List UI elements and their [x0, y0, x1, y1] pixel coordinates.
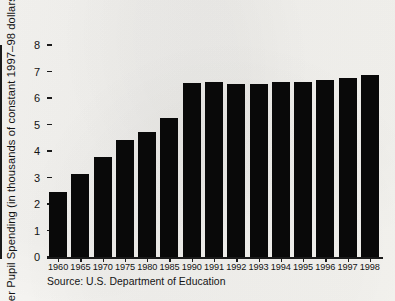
y-tick-label-5: 5 — [18, 119, 40, 131]
bar-1995 — [294, 82, 312, 257]
y-tick-label-1: 1 — [18, 225, 40, 237]
y-tick-label-7: 7 — [18, 66, 40, 78]
bar-1993 — [250, 84, 268, 257]
bar-1992 — [227, 84, 245, 257]
x-tick-label-1965: 1965 — [70, 262, 90, 272]
y-tick-label-6: 6 — [18, 92, 40, 104]
bar-1975 — [116, 140, 134, 257]
bar-1970 — [94, 157, 112, 257]
y-tick-label-2: 2 — [18, 198, 40, 210]
y-tick-label-8: 8 — [18, 39, 40, 51]
bar-1996 — [316, 80, 334, 257]
bar-1994 — [272, 82, 290, 257]
bar-1965 — [71, 174, 89, 257]
bar-1998 — [361, 75, 379, 257]
bar-1991 — [205, 82, 223, 257]
y-tick-label-3: 3 — [18, 172, 40, 184]
x-tick-label-1985: 1985 — [159, 262, 179, 272]
y-axis-line — [0, 45, 2, 259]
bar-1985 — [160, 118, 178, 257]
x-tick-label-1994: 1994 — [271, 262, 291, 272]
x-tick-label-1970: 1970 — [93, 262, 113, 272]
x-tick-label-1993: 1993 — [249, 262, 269, 272]
source-note: Source: U.S. Department of Education — [47, 276, 226, 287]
bar-1990 — [183, 83, 201, 257]
x-tick-label-1980: 1980 — [137, 262, 157, 272]
x-tick-label-1992: 1992 — [226, 262, 246, 272]
bar-1980 — [138, 132, 156, 257]
bar-1960 — [49, 192, 67, 257]
x-tick-label-1997: 1997 — [338, 262, 358, 272]
y-tick-label-0: 0 — [18, 251, 40, 263]
bar-1997 — [339, 78, 357, 257]
plot-area — [47, 45, 381, 257]
bar-chart-figure: Per Pupil Spending (in thousands of cons… — [0, 0, 395, 301]
y-tick-label-4: 4 — [18, 145, 40, 157]
x-tick-label-1998: 1998 — [360, 262, 380, 272]
x-tick-label-1960: 1960 — [48, 262, 68, 272]
x-tick-label-1975: 1975 — [115, 262, 135, 272]
x-tick-label-1996: 1996 — [315, 262, 335, 272]
x-tick-label-1990: 1990 — [182, 262, 202, 272]
x-tick-label-1995: 1995 — [293, 262, 313, 272]
x-tick-label-1991: 1991 — [204, 262, 224, 272]
